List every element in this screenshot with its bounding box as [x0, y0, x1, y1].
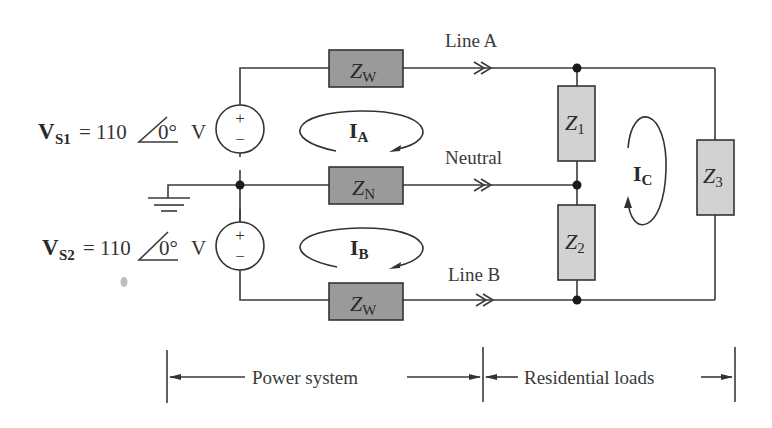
arrow-left-icon — [169, 374, 181, 380]
node-neutral — [573, 181, 582, 190]
section-power-system-label: Power system — [252, 367, 358, 388]
source-1-label: V S1 = 110 0° V — [38, 117, 206, 147]
node-line-b — [573, 296, 582, 305]
ground-icon — [148, 198, 190, 211]
arrow-right-icon — [469, 374, 481, 380]
circuit-diagram: + − + − V S1 = 110 0° V V S2 = 110 0° V … — [0, 0, 772, 428]
impedance-zn: ZN — [329, 167, 403, 204]
line-a-label: Line A — [445, 30, 498, 51]
vs1-magnitude: = 110 — [79, 120, 127, 144]
vs1-symbol: V — [38, 119, 55, 144]
vs2-subscript: S2 — [59, 247, 75, 263]
impedance-z1: Z1 — [558, 86, 595, 161]
mesh-current-ia: IA — [300, 111, 423, 152]
node-source-neutral — [236, 181, 245, 190]
svg-text:IC: IC — [633, 161, 652, 188]
minus-sign: − — [235, 130, 245, 149]
plus-sign: + — [235, 109, 245, 128]
svg-text:IA: IA — [349, 118, 369, 145]
vs2-symbol: V — [42, 235, 59, 260]
plus-sign: + — [235, 226, 245, 245]
vs2-unit: V — [191, 236, 206, 260]
arrow-right-icon — [721, 374, 733, 380]
vs2-magnitude: = 110 — [83, 236, 131, 260]
line-b-label: Line B — [448, 264, 500, 285]
section-residential-loads-label: Residential loads — [524, 367, 654, 388]
section-brackets: Power system Residential loads — [167, 347, 735, 403]
vs1-angle: 0° — [158, 120, 177, 144]
impedance-zw-top: ZW — [329, 50, 403, 87]
vs2-angle: 0° — [159, 236, 178, 260]
arrow-head-icon — [389, 145, 401, 152]
smudge-mark — [121, 277, 128, 287]
voltage-source-1: + − — [216, 105, 264, 153]
wire-ground — [168, 185, 240, 198]
arrow-head-icon — [389, 262, 401, 269]
impedance-z2: Z2 — [558, 205, 595, 280]
vs1-subscript: S1 — [55, 131, 71, 147]
voltage-source-2: + − — [216, 222, 264, 270]
arrow-left-icon — [485, 374, 497, 380]
mesh-current-ic: IC — [624, 117, 666, 225]
node-line-a — [573, 64, 582, 73]
neutral-label: Neutral — [445, 147, 502, 168]
svg-text:IB: IB — [350, 235, 369, 262]
arrow-head-icon — [624, 196, 632, 208]
minus-sign: − — [235, 247, 245, 266]
wire-source2-to-zw — [240, 270, 329, 300]
impedance-zw-bottom: ZW — [329, 283, 403, 320]
vs1-unit: V — [191, 120, 206, 144]
impedance-z3: Z3 — [697, 140, 734, 215]
source-2-label: V S2 = 110 0° V — [42, 232, 206, 263]
mesh-current-ib: IB — [300, 228, 423, 269]
